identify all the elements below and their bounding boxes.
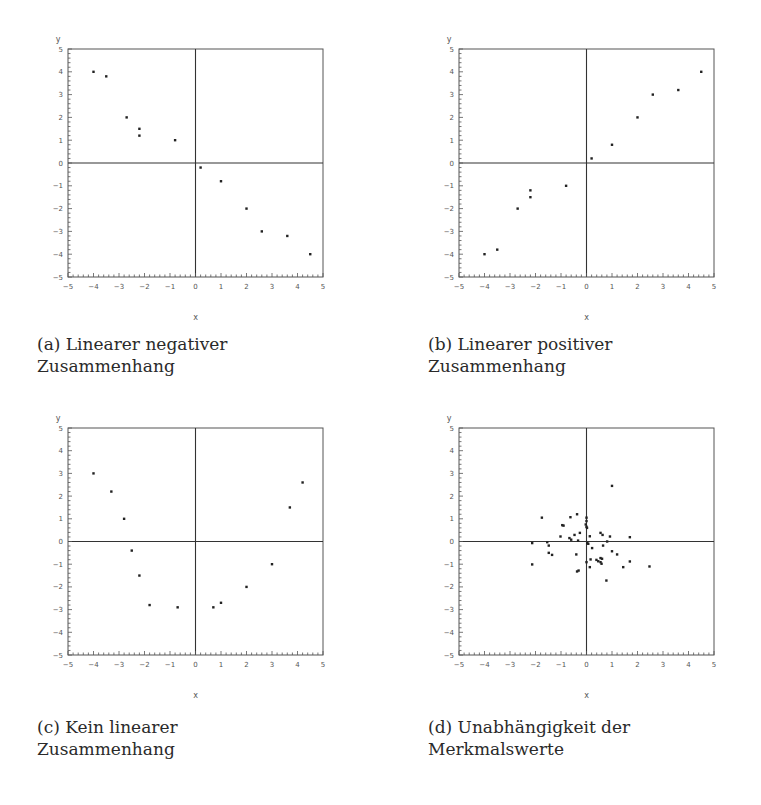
y-tick-label: −5 <box>444 652 454 660</box>
data-point <box>599 532 601 534</box>
caption-d-line2: Merkmalswerte <box>428 738 630 760</box>
data-point <box>585 561 587 563</box>
data-point <box>586 527 588 529</box>
y-tick-label: 5 <box>450 425 454 433</box>
data-point <box>609 535 611 537</box>
data-point <box>569 516 571 518</box>
data-point <box>600 563 602 565</box>
data-point <box>577 539 579 541</box>
data-point <box>559 535 561 537</box>
y-tick-label: 1 <box>450 515 454 523</box>
data-point <box>605 579 607 581</box>
data-point <box>573 534 575 536</box>
data-point <box>562 524 564 526</box>
caption-d-line1: (d) Unabhängigkeit der <box>428 716 630 738</box>
data-point <box>589 566 591 568</box>
data-point <box>531 563 533 565</box>
data-point <box>611 550 613 552</box>
data-point <box>602 544 604 546</box>
x-tick-label: −5 <box>454 661 464 669</box>
y-tick-label: 0 <box>450 538 454 546</box>
y-tick-label: −3 <box>444 606 454 614</box>
x-axis-label: x <box>584 691 589 700</box>
x-tick-label: −4 <box>479 661 490 669</box>
x-tick-label: 5 <box>712 661 716 669</box>
data-points <box>531 485 651 582</box>
data-point <box>570 538 572 540</box>
y-tick-label: 3 <box>450 470 454 478</box>
data-point <box>579 532 581 534</box>
y-tick-label: 2 <box>450 493 454 501</box>
data-point <box>546 541 548 543</box>
y-tick-label: −4 <box>444 629 455 637</box>
y-tick-label: 4 <box>450 447 455 455</box>
data-point <box>585 523 587 525</box>
data-point <box>548 552 550 554</box>
x-tick-label: −2 <box>530 661 540 669</box>
data-point <box>548 544 550 546</box>
data-point <box>601 558 603 560</box>
data-point <box>575 553 577 555</box>
y-tick-label: −1 <box>444 561 454 569</box>
data-point <box>585 520 587 522</box>
x-tick-label: 0 <box>584 661 588 669</box>
data-point <box>586 542 588 544</box>
data-point <box>629 560 631 562</box>
data-point <box>611 485 613 487</box>
data-point <box>589 558 591 560</box>
x-tick-label: 2 <box>635 661 639 669</box>
data-point <box>585 516 587 518</box>
x-tick-label: −1 <box>556 661 566 669</box>
data-point <box>616 553 618 555</box>
data-point <box>531 542 533 544</box>
x-tick-label: 1 <box>610 661 614 669</box>
data-point <box>541 516 543 518</box>
data-point <box>576 570 578 572</box>
data-point <box>601 534 603 536</box>
y-tick-label: −2 <box>444 583 454 591</box>
x-tick-label: 4 <box>686 661 691 669</box>
data-point <box>551 554 553 556</box>
data-point <box>648 565 650 567</box>
data-point <box>606 540 608 542</box>
data-point <box>576 513 578 515</box>
data-point <box>629 536 631 538</box>
x-tick-label: 3 <box>661 661 665 669</box>
data-point <box>591 547 593 549</box>
data-point <box>622 566 624 568</box>
x-tick-label: −3 <box>505 661 515 669</box>
scatter-plot-d: −5−4−3−2−1012345−5−4−3−2−1012345xy <box>0 0 761 805</box>
data-point <box>597 560 599 562</box>
data-point <box>589 535 591 537</box>
caption-d: (d) Unabhängigkeit der Merkmalswerte <box>428 716 630 760</box>
y-axis-label: y <box>447 414 452 423</box>
